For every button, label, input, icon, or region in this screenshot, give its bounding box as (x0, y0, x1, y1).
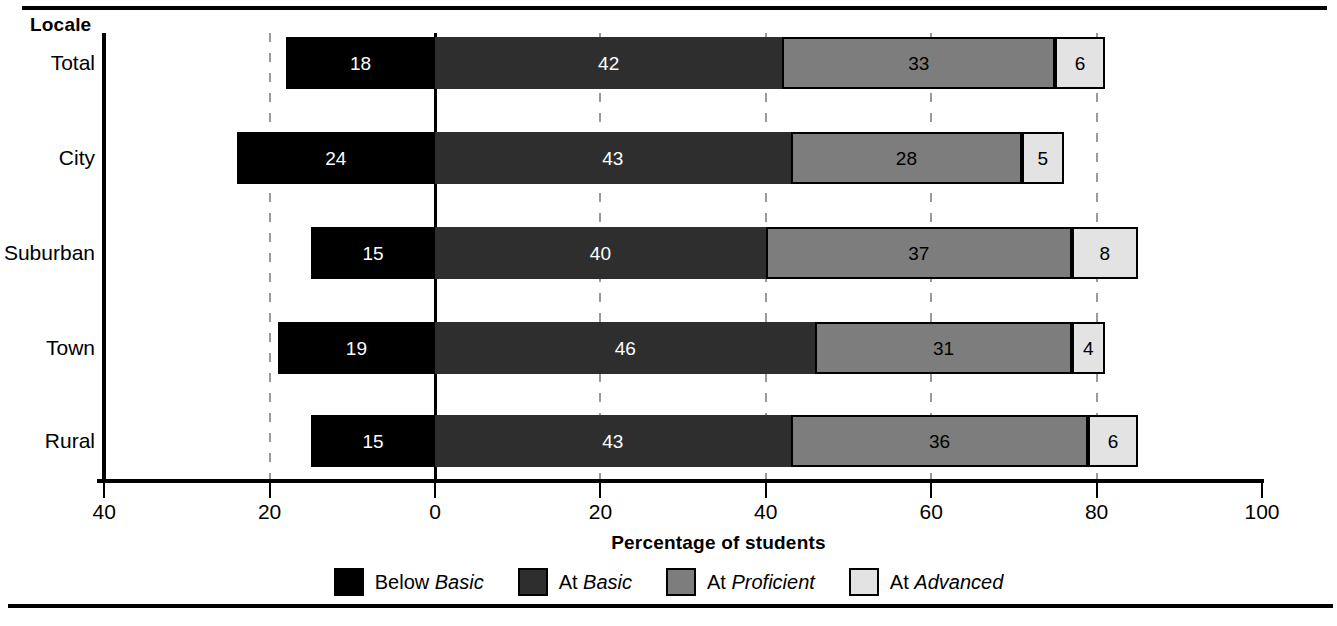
x-tick-label: 0 (405, 500, 465, 524)
segment-at-basic: 42 (435, 37, 782, 89)
row-label-town: Town (46, 336, 95, 360)
x-tick (599, 479, 601, 498)
segment-at-basic: 40 (435, 227, 766, 279)
x-tick (434, 479, 436, 498)
segment-at-proficient: 37 (766, 227, 1072, 279)
x-tick (765, 479, 767, 498)
naep-achievement-level-chart: Locale 4020020406080100 Total1842336City… (0, 0, 1337, 626)
x-tick-label: 60 (901, 500, 961, 524)
segment-below-basic: 24 (237, 132, 435, 184)
legend-prefix: At (707, 571, 731, 593)
row-label-suburban: Suburban (4, 241, 95, 265)
legend-item-proficient-2[interactable]: At Proficient (666, 568, 815, 596)
row-label-rural: Rural (45, 429, 95, 453)
legend-item-basic-1[interactable]: At Basic (518, 568, 632, 596)
x-tick (1096, 479, 1098, 498)
legend-label: At Basic (559, 571, 632, 594)
legend-label: At Advanced (890, 571, 1003, 594)
segment-at-proficient: 31 (815, 322, 1071, 374)
x-tick-label: 20 (240, 500, 300, 524)
x-tick (930, 479, 932, 498)
segment-at-basic: 46 (435, 322, 815, 374)
segment-at-proficient: 36 (791, 415, 1089, 467)
segment-below-basic: 19 (278, 322, 435, 374)
legend-prefix: At (890, 571, 914, 593)
segment-at-basic: 43 (435, 415, 791, 467)
x-tick-label: 40 (74, 500, 134, 524)
gridline (269, 33, 271, 479)
segment-at-advanced: 5 (1022, 132, 1063, 184)
legend-item-basic-0[interactable]: Below Basic (334, 568, 484, 596)
segment-below-basic: 15 (311, 227, 435, 279)
segment-below-basic: 18 (286, 37, 435, 89)
legend-item-advanced-3[interactable]: At Advanced (849, 568, 1003, 596)
segment-at-proficient: 33 (782, 37, 1055, 89)
row-label-city: City (59, 146, 95, 170)
legend-level: Proficient (731, 571, 814, 593)
legend: Below BasicAt BasicAt ProficientAt Advan… (0, 568, 1337, 596)
row-label-total: Total (51, 51, 95, 75)
segment-at-advanced: 6 (1055, 37, 1105, 89)
x-axis-title: Percentage of students (0, 532, 1337, 554)
segment-at-advanced: 6 (1088, 415, 1138, 467)
legend-prefix: Below (375, 571, 435, 593)
segment-at-basic: 43 (435, 132, 791, 184)
x-tick-label: 40 (736, 500, 796, 524)
segment-below-basic: 15 (311, 415, 435, 467)
legend-level: Basic (435, 571, 484, 593)
legend-label: Below Basic (375, 571, 484, 594)
legend-label: At Proficient (707, 571, 815, 594)
x-tick (269, 479, 271, 498)
below-basic-swatch (334, 568, 364, 596)
at-proficient-swatch (666, 568, 696, 596)
at-advanced-swatch (849, 568, 879, 596)
x-tick (1261, 479, 1263, 498)
x-axis-line (97, 479, 1264, 483)
segment-at-advanced: 4 (1072, 322, 1105, 374)
legend-level: Basic (583, 571, 632, 593)
plot-area: Locale 4020020406080100 Total1842336City… (0, 0, 1337, 626)
x-axis-title-text: Percentage of students (611, 532, 826, 554)
legend-level: Advanced (914, 571, 1003, 593)
legend-prefix: At (559, 571, 583, 593)
at-basic-swatch (518, 568, 548, 596)
x-tick (103, 479, 105, 498)
x-tick-label: 20 (570, 500, 630, 524)
segment-at-advanced: 8 (1072, 227, 1138, 279)
x-tick-label: 80 (1067, 500, 1127, 524)
x-tick-label: 100 (1232, 500, 1292, 524)
y-axis-line (102, 33, 106, 480)
y-axis-title: Locale (30, 14, 91, 36)
segment-at-proficient: 28 (791, 132, 1023, 184)
